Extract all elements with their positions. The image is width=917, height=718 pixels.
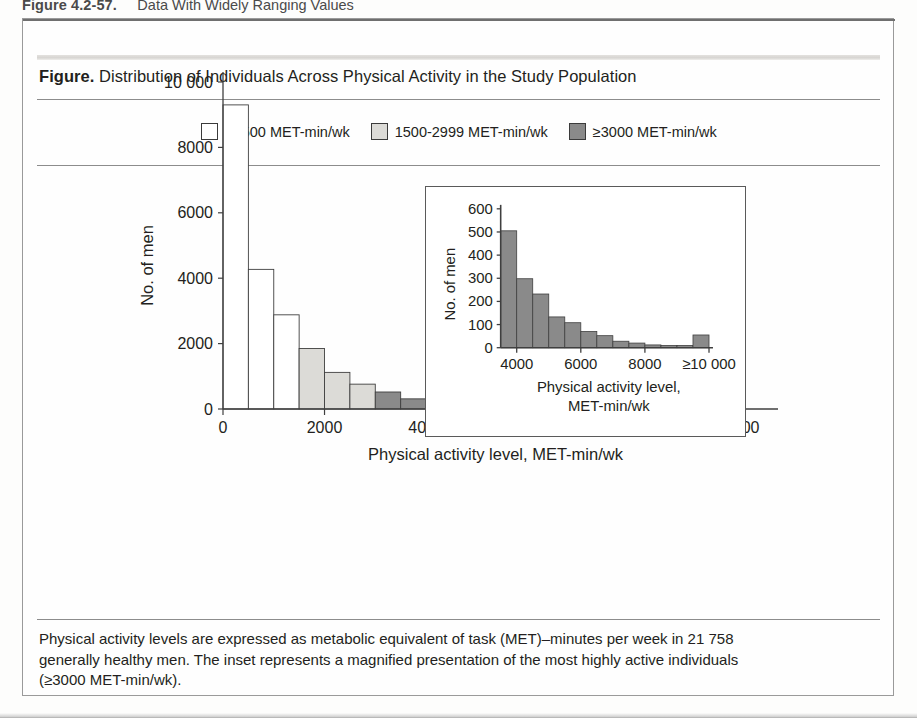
inset-bar-0 (501, 231, 517, 348)
main-y-ticklabel: 4000 (177, 270, 213, 287)
main-y-ticklabel: 6000 (177, 204, 213, 221)
main-y-ticklabel: 0 (204, 401, 213, 418)
figure-box: Figure. Distribution of Individuals Acro… (22, 18, 894, 696)
figure-footnote: Physical activity levels are expressed a… (39, 629, 877, 691)
inset-histogram: 0100200300400500600400060008000≥10 000Ph… (426, 187, 745, 436)
main-y-ticklabel: 10 000 (164, 74, 213, 91)
inset-y-ticklabel: 500 (468, 224, 493, 240)
footnote-line-1: Physical activity levels are expressed a… (39, 629, 877, 650)
inset-y-ticklabel: 400 (468, 247, 493, 263)
inset-x-ticklabel: ≥10 000 (682, 356, 736, 372)
inset-bar-5 (581, 332, 597, 348)
inset-y-ticklabel: 600 (468, 201, 493, 217)
inset-y-ticklabel: 100 (468, 317, 493, 333)
main-bar-3 (299, 349, 324, 410)
inset-y-ticklabel: 200 (468, 293, 493, 309)
inset-bar-3 (549, 317, 565, 348)
inset-bar-2 (533, 294, 549, 348)
main-ylabel: No. of men (138, 225, 156, 306)
main-bar-5 (350, 384, 375, 409)
main-bar-2 (274, 315, 299, 409)
inset-y-ticklabel: 0 (484, 340, 492, 356)
chapter-title: Figure 4.2-57. Data With Widely Ranging … (22, 0, 882, 14)
footnote-line-2: generally healthy men. The inset represe… (39, 650, 877, 671)
main-bar-4 (325, 372, 350, 409)
inset-x-ticklabel: 4000 (500, 356, 533, 372)
inset-x-ticklabel: 8000 (628, 356, 661, 372)
inset-panel: 0100200300400500600400060008000≥10 000Ph… (425, 186, 746, 437)
inset-bar-12 (693, 335, 709, 348)
inset-bar-1 (517, 279, 533, 348)
inset-bar-7 (613, 341, 629, 347)
inset-ylabel: No. of men (442, 248, 458, 321)
main-bar-1 (248, 269, 273, 409)
inset-y-ticklabel: 300 (468, 270, 493, 286)
main-bar-6 (375, 392, 400, 409)
main-y-ticklabel: 8000 (177, 139, 213, 156)
footnote-line-3: (≥3000 MET-min/wk). (39, 670, 877, 691)
inset-xlabel-line1: Physical activity level, (537, 379, 681, 395)
main-bar-7 (401, 399, 426, 409)
page-edge-shadow (0, 713, 917, 718)
main-x-ticklabel: 2000 (307, 419, 343, 436)
main-bar-0 (223, 105, 248, 409)
chapter-title-text: Data With Widely Ranging Values (137, 0, 354, 13)
inset-bar-4 (565, 323, 581, 348)
inset-bar-6 (597, 336, 613, 348)
main-x-ticklabel: 0 (219, 419, 228, 436)
main-y-ticklabel: 2000 (177, 335, 213, 352)
divider-rule-3 (37, 619, 880, 620)
chapter-number: Figure 4.2-57. (22, 0, 117, 13)
inset-x-ticklabel: 6000 (564, 356, 597, 372)
main-xlabel: Physical activity level, MET-min/wk (368, 445, 624, 463)
inset-xlabel-line2: MET-min/wk (568, 398, 650, 414)
